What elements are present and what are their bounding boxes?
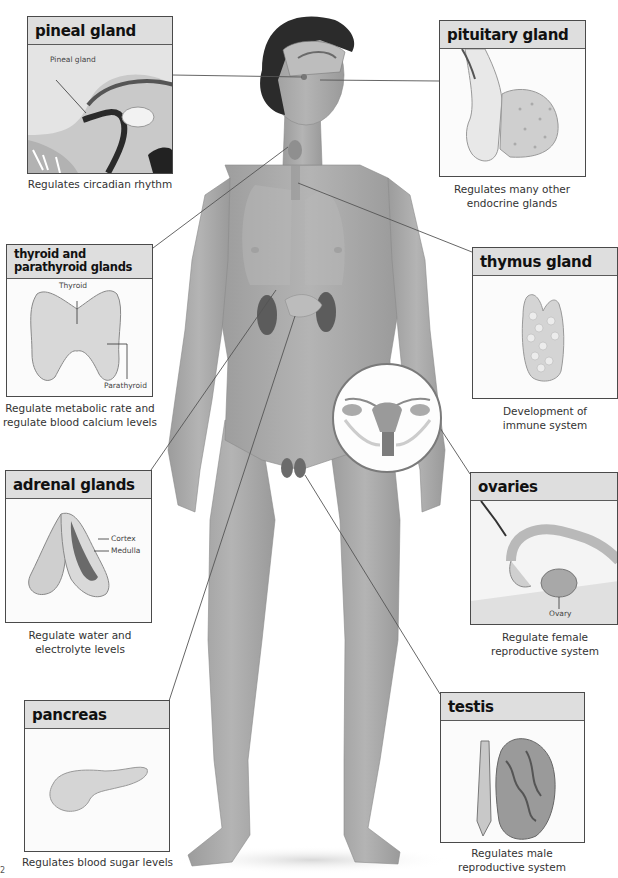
cortex-label: Cortex bbox=[111, 534, 136, 543]
adrenal-glands-title: adrenal glands bbox=[6, 471, 151, 499]
thymus-gland-caption: Development of immune system bbox=[465, 404, 618, 432]
kidney-right bbox=[316, 292, 336, 332]
pineal-gland-box: pineal gland Pineal gland bbox=[27, 16, 173, 174]
pineal-gland-illustration: Pineal gland bbox=[28, 45, 172, 173]
ovaries-box: ovaries Ovary bbox=[470, 472, 618, 625]
thyroid-gland-title: thyroid and parathyroid glands bbox=[7, 245, 152, 279]
ovaries-caption: Regulate female reproductive system bbox=[465, 630, 618, 658]
thymus-gland-title: thymus gland bbox=[473, 248, 617, 276]
pancreas-caption: Regulates blood sugar levels bbox=[10, 855, 185, 869]
adrenal-glands-caption: Regulate water and electrolyte levels bbox=[0, 628, 160, 656]
pituitary-gland-title: pituitary gland bbox=[440, 21, 585, 49]
ovaries-inset bbox=[333, 364, 441, 472]
ovary-label: Ovary bbox=[549, 609, 571, 618]
pituitary-gland-illustration bbox=[440, 49, 585, 176]
testis-box: testis bbox=[440, 692, 585, 843]
pancreas-title: pancreas bbox=[25, 701, 169, 729]
pineal-gland-caption: Regulates circadian rhythm bbox=[20, 177, 180, 191]
testis-illustration bbox=[441, 721, 584, 842]
thyroid-gland-box: thyroid and parathyroid glands Thyroid P… bbox=[6, 244, 153, 397]
thyroid-gland-illustration: Thyroid Parathyroid bbox=[7, 279, 152, 396]
pineal-gland-title: pineal gland bbox=[28, 17, 172, 45]
pineal-gland-label: Pineal gland bbox=[50, 55, 96, 64]
endocrine-diagram: pineal gland Pineal gland Regulates circ… bbox=[0, 0, 618, 878]
adrenal-glands-illustration: Cortex Medulla bbox=[6, 499, 151, 622]
pituitary-gland-box: pituitary gland bbox=[439, 20, 586, 177]
testis-title: testis bbox=[441, 693, 584, 721]
pancreas-illustration bbox=[25, 729, 169, 851]
testis-caption: Regulates male reproductive system bbox=[432, 846, 592, 874]
parathyroid-label: Parathyroid bbox=[104, 381, 147, 390]
pancreas-box: pancreas bbox=[24, 700, 170, 852]
medulla-label: Medulla bbox=[111, 546, 140, 555]
thyroid-label: Thyroid bbox=[59, 281, 87, 290]
page-mark: 2 bbox=[0, 866, 5, 875]
ovaries-title: ovaries bbox=[471, 473, 617, 501]
ovaries-illustration: Ovary bbox=[471, 501, 617, 624]
adrenal-glands-box: adrenal glands Cortex Medulla bbox=[5, 470, 152, 623]
thymus-gland-box: thymus gland bbox=[472, 247, 618, 399]
kidney-left bbox=[257, 295, 277, 335]
pituitary-gland-caption: Regulates many other endocrine glands bbox=[432, 182, 592, 210]
thyroid-gland-caption: Regulate metabolic rate and regulate blo… bbox=[0, 401, 160, 429]
thymus-gland-illustration bbox=[473, 276, 617, 398]
